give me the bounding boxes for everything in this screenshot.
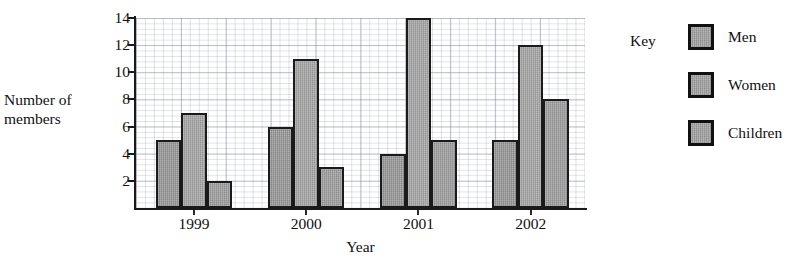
y-axis-label-line1: Number of: [4, 91, 72, 108]
x-axis-tick-mark: [305, 210, 307, 215]
x-axis-tick-mark: [193, 210, 195, 215]
legend-item-men: Men: [688, 22, 756, 52]
legend-item-children: Children: [688, 118, 782, 148]
y-axis-tick-label: 12: [100, 37, 130, 53]
y-axis-tick-label: 14: [100, 10, 130, 26]
bar-chart-figure: Number of members 2468101214 Year Key Me…: [0, 0, 799, 262]
y-axis-label: Number of members: [4, 90, 100, 128]
x-axis-tick-label: 2001: [373, 215, 463, 233]
y-axis-tick-label: 2: [100, 173, 130, 189]
x-axis-tick-mark: [417, 210, 419, 215]
bar-1999-men: [156, 140, 182, 208]
chart-legend: Key MenWomenChildren: [630, 22, 795, 162]
legend-swatch-women: [688, 72, 714, 98]
bar-2002-women: [518, 45, 544, 208]
y-axis-tick-label: 4: [100, 146, 130, 162]
x-axis-tick-mark: [530, 210, 532, 215]
bar-2000-men: [268, 127, 294, 208]
x-axis-tick-label: 1999: [149, 215, 239, 233]
x-axis-tick-label: 2002: [486, 215, 576, 233]
legend-swatch-children: [688, 120, 714, 146]
x-axis-label: Year: [136, 238, 585, 256]
y-axis-tick-mark: [128, 180, 136, 182]
bar-1999-women: [181, 113, 207, 208]
legend-label-women: Women: [728, 76, 776, 94]
bar-2000-children: [319, 167, 345, 208]
x-axis-tick-label: 2000: [261, 215, 351, 233]
legend-swatch-men: [688, 24, 714, 50]
y-axis-tick-mark: [128, 44, 136, 46]
y-axis-tick-mark: [128, 17, 136, 19]
bar-2001-children: [431, 140, 457, 208]
bar-2002-children: [543, 99, 569, 208]
y-axis-tick-labels: 2468101214: [100, 10, 130, 215]
legend-label-children: Children: [728, 124, 782, 142]
x-axis-line: [134, 208, 587, 210]
legend-label-men: Men: [728, 28, 756, 46]
y-axis-tick-label: 10: [100, 65, 130, 81]
y-axis-tick-mark: [128, 71, 136, 73]
bar-2000-women: [293, 59, 319, 208]
y-axis-tick-mark: [128, 98, 136, 100]
bar-2002-men: [492, 140, 518, 208]
bar-2001-men: [380, 154, 406, 208]
y-axis-tick-label: 8: [100, 92, 130, 108]
y-axis-label-line2: members: [4, 109, 100, 128]
bar-1999-children: [207, 181, 233, 208]
y-axis-tick-mark: [128, 126, 136, 128]
legend-title: Key: [630, 32, 656, 50]
y-axis-tick-label: 6: [100, 119, 130, 135]
legend-item-women: Women: [688, 70, 776, 100]
bar-2001-women: [406, 18, 432, 208]
y-axis-tick-mark: [128, 153, 136, 155]
